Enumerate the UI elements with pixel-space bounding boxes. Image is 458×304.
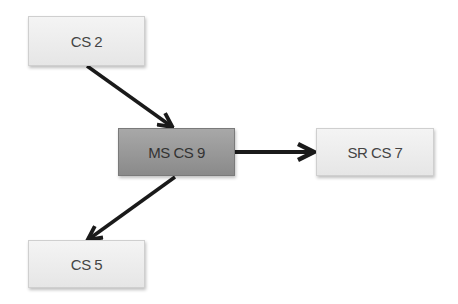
- node-label: CS 5: [71, 256, 102, 273]
- node-cs5: CS 5: [28, 240, 145, 288]
- node-mscs9: MS CS 9: [118, 128, 235, 176]
- edge-mscs9-to-cs5: [89, 177, 175, 239]
- node-label: CS 2: [71, 33, 102, 50]
- edge-cs2-to-mscs9: [87, 66, 171, 126]
- node-label: MS CS 9: [148, 144, 205, 161]
- node-label: SR CS 7: [348, 144, 403, 161]
- node-cs2: CS 2: [28, 16, 145, 66]
- node-srcs7: SR CS 7: [316, 128, 434, 176]
